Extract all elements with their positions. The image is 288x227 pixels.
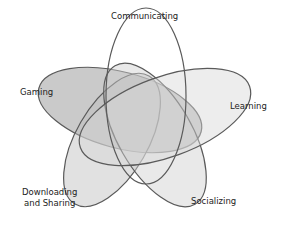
- label-learning: Learning: [230, 101, 267, 112]
- label-downloading-line1: Downloading: [22, 187, 77, 198]
- label-gaming: Gaming: [20, 87, 53, 98]
- ellipse-communicating: [106, 8, 186, 184]
- label-communicating: Communicating: [111, 11, 178, 22]
- label-downloading-line2: and Sharing: [22, 198, 77, 209]
- label-downloading-and-sharing: Downloading and Sharing: [22, 187, 77, 209]
- label-socializing: Socializing: [191, 196, 236, 207]
